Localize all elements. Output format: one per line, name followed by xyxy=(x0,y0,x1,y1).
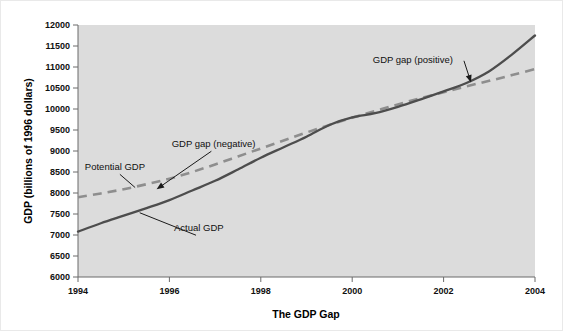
x-tick-label: 2000 xyxy=(342,286,362,296)
gdp-gap-line-chart: 1200011500110001050010000950090008500800… xyxy=(0,0,564,332)
x-tick-label: 1996 xyxy=(159,286,179,296)
y-tick-label: 9000 xyxy=(50,146,70,156)
x-tick-label: 2002 xyxy=(434,286,454,296)
y-tick-label: 8000 xyxy=(50,188,70,198)
y-tick-label: 12000 xyxy=(45,20,70,30)
gdp-gap-figure: 1200011500110001050010000950090008500800… xyxy=(0,0,564,332)
y-axis-ticks: 1200011500110001050010000950090008500800… xyxy=(45,20,78,282)
annotation-label: Potential GDP xyxy=(85,161,145,172)
x-axis-ticks: 199419961998200020022004 xyxy=(68,277,545,296)
y-tick-label: 6000 xyxy=(50,272,70,282)
y-tick-label: 8500 xyxy=(50,167,70,177)
plot-area-background xyxy=(78,25,535,277)
y-tick-label: 10500 xyxy=(45,83,70,93)
y-tick-label: 7000 xyxy=(50,230,70,240)
y-axis-title: GDP (billions of 1996 dollars) xyxy=(22,78,34,224)
y-tick-label: 9500 xyxy=(50,125,70,135)
y-tick-label: 11500 xyxy=(45,41,70,51)
annotation-label: GDP gap (negative) xyxy=(172,138,256,149)
x-tick-label: 1994 xyxy=(68,286,88,296)
x-tick-label: 2004 xyxy=(525,286,545,296)
annotation-label: Actual GDP xyxy=(174,222,224,233)
y-tick-label: 6500 xyxy=(50,251,70,261)
x-axis-title: The GDP Gap xyxy=(272,308,340,320)
annotation-label: GDP gap (positive) xyxy=(373,54,453,65)
x-tick-label: 1998 xyxy=(251,286,271,296)
y-tick-label: 7500 xyxy=(50,209,70,219)
y-tick-label: 11000 xyxy=(45,62,70,72)
y-tick-label: 10000 xyxy=(45,104,70,114)
